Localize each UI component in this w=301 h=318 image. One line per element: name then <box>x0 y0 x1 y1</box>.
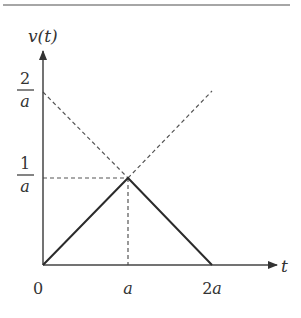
x-tick-0: 0 <box>33 279 43 298</box>
dashed-line-descending <box>43 92 128 178</box>
y-tick-2-over-a-denominator: a <box>20 92 30 111</box>
x-axis-label: t <box>281 256 288 276</box>
x-tick-2a-coefficient: 2 <box>202 279 212 298</box>
triangle-pulse-diagram: v(t) t 2 a 1 a 0 a 2a <box>0 0 301 318</box>
x-tick-2a-variable: a <box>212 279 222 298</box>
dashed-line-ascending <box>128 91 212 178</box>
y-tick-2-over-a-numerator: 2 <box>20 69 30 88</box>
y-tick-1-over-a-denominator: a <box>20 177 30 196</box>
x-tick-a: a <box>123 279 133 298</box>
x-tick-2a: 2a <box>202 279 222 298</box>
y-tick-1-over-a-numerator: 1 <box>20 154 30 173</box>
y-axis-label: v(t) <box>28 26 58 46</box>
